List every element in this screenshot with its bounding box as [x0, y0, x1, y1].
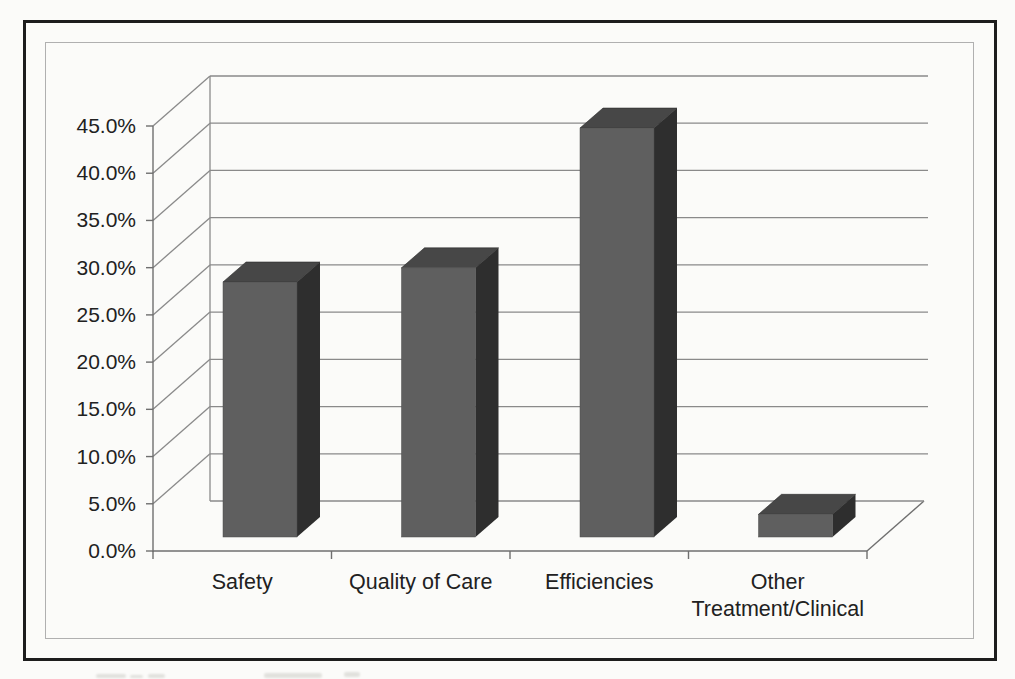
y-axis-label: 25.0%	[76, 303, 136, 326]
x-axis-label: Treatment/Clinical	[692, 597, 864, 621]
gridline-diagonal	[153, 359, 210, 409]
x-axis-label: Quality of Care	[349, 570, 492, 594]
scan-artifact	[344, 672, 360, 677]
y-axis-label: 30.0%	[76, 256, 136, 279]
y-axis-label: 0.0%	[88, 539, 136, 562]
scan-artifact	[130, 675, 143, 678]
x-axis-label: Efficiencies	[545, 570, 653, 594]
gridline-diagonal	[153, 454, 210, 504]
scanned-figure-page: 0.0%5.0%10.0%15.0%20.0%25.0%30.0%35.0%40…	[0, 0, 1015, 679]
bar-quality-of-care-front	[402, 268, 476, 537]
gridline-diagonal	[153, 265, 210, 315]
scan-artifact	[96, 674, 126, 678]
y-axis-label: 5.0%	[88, 492, 136, 515]
bar-chart-3d: 0.0%5.0%10.0%15.0%20.0%25.0%30.0%35.0%40…	[0, 0, 1015, 679]
gridline-diagonal	[153, 218, 210, 268]
gridline-diagonal	[153, 170, 210, 220]
y-axis-label: 15.0%	[76, 397, 136, 420]
gridline-diagonal	[153, 312, 210, 362]
scan-artifact	[264, 673, 322, 678]
y-axis-label: 35.0%	[76, 208, 136, 231]
y-axis-label: 40.0%	[76, 161, 136, 184]
gridline-diagonal	[153, 407, 210, 457]
gridline-diagonal	[153, 123, 210, 173]
bar-other-treatment-clinical-front	[759, 514, 833, 537]
gridline-diagonal	[153, 76, 210, 126]
y-axis-label: 20.0%	[76, 350, 136, 373]
bar-efficiencies-front	[580, 128, 654, 537]
x-axis-label: Safety	[212, 570, 273, 594]
x-axis-label: Other	[751, 570, 805, 594]
bar-efficiencies-side	[654, 108, 677, 537]
y-axis-label: 10.0%	[76, 445, 136, 468]
bar-safety-side	[297, 262, 320, 537]
bar-safety-front	[223, 282, 297, 537]
y-axis-label: 45.0%	[76, 114, 136, 137]
floor-right-edge	[867, 501, 924, 551]
scan-artifact	[148, 674, 165, 678]
bar-quality-of-care-side	[476, 248, 499, 537]
